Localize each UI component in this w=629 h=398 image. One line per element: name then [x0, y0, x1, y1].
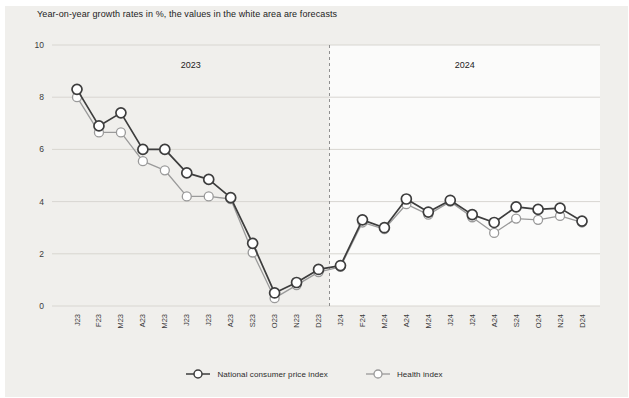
x-axis-tick-label: S23 [248, 314, 257, 327]
legend-item-ncpi: National consumer price index [186, 368, 328, 380]
x-axis-tick-label: J23 [182, 314, 191, 326]
year-label: 2023 [181, 60, 201, 70]
data-point-ncpi [445, 195, 455, 205]
year-label: 2024 [455, 60, 475, 70]
x-axis-tick-label: N24 [556, 314, 565, 328]
x-axis-tick-label: A24 [490, 314, 499, 327]
legend-label-health: Health index [397, 370, 443, 379]
health-marker-icon [366, 368, 390, 380]
data-point-ncpi [292, 278, 302, 288]
x-axis-tick-label: M23 [160, 314, 169, 329]
data-point-ncpi [138, 144, 148, 154]
data-point-ncpi [577, 216, 587, 226]
x-axis-tick-label: J24 [336, 314, 345, 326]
x-axis-tick-label: M24 [424, 314, 433, 329]
x-axis-tick-label: A23 [226, 314, 235, 327]
data-point-ncpi [423, 207, 433, 217]
data-point-ncpi [401, 194, 411, 204]
data-point-ncpi [248, 238, 258, 248]
y-axis-tick-label: 10 [35, 40, 45, 50]
data-point-ncpi [204, 174, 214, 184]
data-point-ncpi [182, 168, 192, 178]
data-point-health [512, 214, 521, 223]
data-point-ncpi [72, 84, 82, 94]
data-point-ncpi [489, 217, 499, 227]
data-point-ncpi [357, 215, 367, 225]
x-axis-tick-label: S24 [512, 314, 521, 327]
data-point-health [490, 228, 499, 237]
x-axis-tick-label: A23 [138, 314, 147, 327]
data-point-ncpi [314, 264, 324, 274]
data-point-ncpi [379, 223, 389, 233]
x-axis-tick-label: M23 [116, 314, 125, 329]
data-point-ncpi [467, 210, 477, 220]
y-axis-tick-label: 0 [39, 301, 44, 311]
x-axis-tick-label: F24 [358, 314, 367, 327]
x-axis-tick-label: N23 [292, 314, 301, 328]
data-point-health [138, 157, 147, 166]
legend-label-ncpi: National consumer price index [217, 370, 328, 379]
x-axis-tick-label: O24 [534, 314, 543, 328]
y-axis-tick-label: 6 [39, 144, 44, 154]
x-axis-tick-label: M24 [380, 314, 389, 329]
data-point-health [116, 128, 125, 137]
legend-item-health: Health index [366, 368, 443, 380]
line-chart: 024681020232024J23F23M23A23M23J23J23A23S… [0, 0, 629, 398]
x-axis-tick-label: J23 [204, 314, 213, 326]
x-axis-tick-label: D23 [314, 314, 323, 328]
data-point-ncpi [226, 193, 236, 203]
data-point-health [182, 192, 191, 201]
data-point-ncpi [555, 203, 565, 213]
data-point-health [160, 166, 169, 175]
data-point-ncpi [270, 288, 280, 298]
x-axis-tick-label: A24 [402, 314, 411, 327]
data-point-health [534, 215, 543, 224]
x-axis-tick-label: J24 [446, 314, 455, 326]
data-point-health [204, 192, 213, 201]
x-axis-tick-label: F23 [94, 314, 103, 327]
y-axis-tick-label: 2 [39, 249, 44, 259]
x-axis-tick-label: D24 [578, 314, 587, 328]
data-point-ncpi [533, 204, 543, 214]
data-point-ncpi [511, 202, 521, 212]
data-point-ncpi [116, 108, 126, 118]
y-axis-tick-label: 8 [39, 92, 44, 102]
data-point-ncpi [335, 261, 345, 271]
data-point-ncpi [94, 121, 104, 131]
ncpi-marker-icon [186, 368, 210, 380]
x-axis-tick-label: O23 [270, 314, 279, 328]
x-axis-tick-label: J23 [73, 314, 82, 326]
data-point-ncpi [160, 144, 170, 154]
x-axis-tick-label: J24 [468, 314, 477, 326]
y-axis-tick-label: 4 [39, 197, 44, 207]
forecast-region [330, 45, 601, 306]
legend: National consumer price index Health ind… [0, 368, 629, 380]
